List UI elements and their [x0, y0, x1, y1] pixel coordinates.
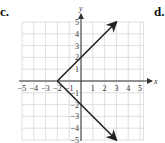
- y-axis-label: y: [78, 4, 83, 13]
- x-tick-label: −3: [41, 84, 50, 93]
- y-tick-label: 5: [75, 18, 79, 27]
- x-tick-label: 3: [114, 84, 118, 93]
- x-axis-label: x: [153, 77, 158, 86]
- y-tick-label: 3: [75, 42, 79, 51]
- x-tick-label: 5: [138, 84, 142, 93]
- x-tick-label: −5: [18, 84, 27, 93]
- coordinate-graph: xy−5−4−3−2−11234554321−1−2−3−4−5: [0, 0, 165, 143]
- x-tick-label: 2: [103, 84, 107, 93]
- x-tick-label: −4: [30, 84, 39, 93]
- ray-upper: [57, 22, 116, 81]
- x-tick-label: −2: [53, 84, 62, 93]
- y-tick-label: −3: [70, 112, 79, 121]
- x-tick-label: 4: [126, 84, 130, 93]
- y-tick-label: 1: [75, 65, 79, 74]
- ray-lower: [57, 81, 116, 140]
- y-tick-label: 4: [75, 30, 79, 39]
- x-tick-label: 1: [91, 84, 95, 93]
- y-tick-label: −4: [70, 124, 79, 133]
- y-tick-label: −5: [70, 136, 79, 143]
